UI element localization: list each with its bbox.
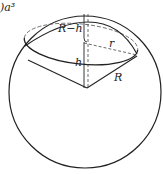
title-fragment: )a³ — [0, 1, 15, 14]
sphere-outline — [9, 16, 161, 168]
height-bracket — [84, 14, 87, 88]
cone-side-right — [87, 56, 137, 88]
label-h: h — [75, 56, 82, 69]
label-r-minus-h: R−h — [57, 22, 83, 35]
sphere-cone-diagram: )a³ R−h r h R — [0, 0, 163, 174]
label-r: r — [109, 37, 115, 50]
label-R: R — [113, 71, 122, 84]
